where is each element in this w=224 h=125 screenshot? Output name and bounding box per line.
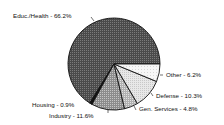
pie-slices	[68, 18, 160, 110]
label-educ-health: Educ./Health - 66.2%	[13, 12, 72, 19]
leader-defense	[151, 93, 153, 96]
leader-educ	[91, 17, 94, 21]
label-gen-services: Gen. Services - 4.8%	[139, 105, 198, 112]
leader-gen-services	[134, 106, 136, 110]
label-other: Other - 6.2%	[166, 71, 202, 78]
label-defense: Defense - 10.3%	[156, 92, 203, 99]
label-industry: Industry - 11.6%	[49, 112, 94, 119]
pie-chart: Educ./Health - 66.2% Other - 6.2% Defens…	[0, 0, 224, 125]
label-housing: Housing - 0.9%	[32, 101, 75, 108]
